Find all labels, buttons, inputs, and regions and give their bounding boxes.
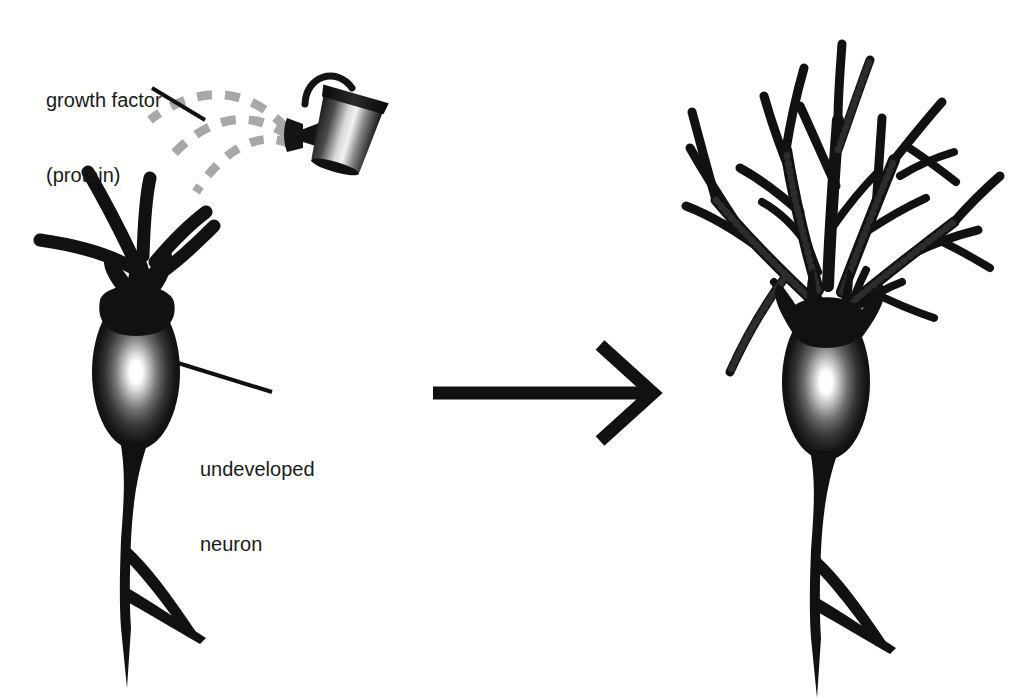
label-growth-factor-line1: growth factor <box>46 88 162 113</box>
figure-canvas: growth factor (protein) undeveloped neur… <box>0 0 1027 699</box>
growth-factor-spray[interactable] <box>150 95 290 192</box>
undeveloped-neuron <box>40 172 214 688</box>
watering-can-spout-mouth <box>284 118 303 152</box>
undeveloped-soma-apex <box>99 285 174 336</box>
developed-axon-branch-1 <box>814 556 886 646</box>
undeveloped-axon <box>120 440 206 688</box>
developed-soma-apex <box>790 297 865 348</box>
spray-arc-bottom <box>196 139 290 192</box>
label-undeveloped-neuron: undeveloped neuron <box>200 407 315 607</box>
axon-branch-1 <box>124 546 196 636</box>
leader-line-undeveloped-neuron <box>178 363 272 392</box>
label-growth-factor: growth factor (protein) <box>46 38 162 238</box>
developed-neuron <box>686 44 1000 698</box>
label-undeveloped-neuron-line2: neuron <box>200 532 315 557</box>
dendrite-left-outer <box>40 240 133 268</box>
watering-can-icon[interactable] <box>284 76 389 181</box>
dendrite-5-branch-c <box>934 238 990 268</box>
label-growth-factor-line2: (protein) <box>46 163 162 188</box>
dendrite-5-branch-b <box>954 176 1000 222</box>
transformation-arrow <box>433 345 653 441</box>
developed-axon <box>810 450 896 698</box>
label-undeveloped-neuron-line1: undeveloped <box>200 457 315 482</box>
dendrite-3-branch-c <box>838 44 842 120</box>
